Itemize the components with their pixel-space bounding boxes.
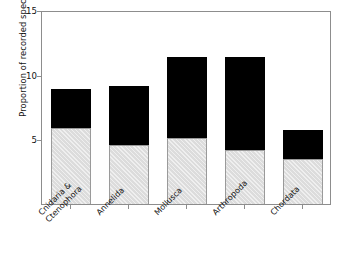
- bar-chart-figure: Proportion of recorded species 51015 Cni…: [0, 0, 346, 260]
- x-tick-mark: [70, 205, 71, 209]
- bar-segment-upper: [283, 130, 323, 158]
- y-tick-label: 10: [26, 71, 37, 81]
- x-tick-mark: [128, 205, 129, 209]
- bars-container: [42, 12, 330, 204]
- bar-annelida: [109, 86, 149, 204]
- x-tick-mark: [302, 205, 303, 209]
- x-tick-mark: [244, 205, 245, 209]
- x-tick-mark: [186, 205, 187, 209]
- bar-segment-upper: [51, 89, 91, 128]
- y-tick-label: 5: [32, 135, 37, 145]
- bar-mollusca: [167, 57, 207, 204]
- plot-area: [41, 11, 331, 205]
- y-tick-label: 15: [26, 6, 37, 16]
- y-axis-title: Proportion of recorded species: [18, 0, 28, 137]
- bar-segment-upper: [167, 57, 207, 138]
- bar-segment-upper: [109, 86, 149, 144]
- bar-segment-upper: [225, 57, 265, 150]
